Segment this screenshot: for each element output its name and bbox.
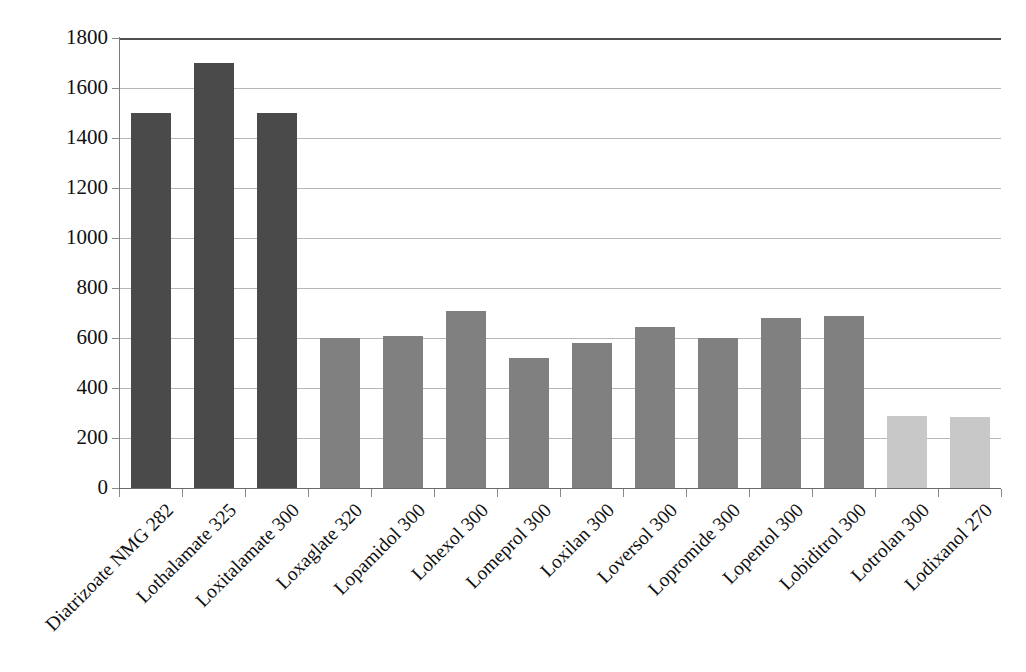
y-tick-mark-600 xyxy=(112,338,119,339)
y-tick-label-800: 800 xyxy=(0,277,108,298)
x-tick-mark xyxy=(119,489,120,497)
gridline-1600 xyxy=(119,88,1001,89)
y-tick-mark-1200 xyxy=(112,188,119,189)
y-tick-label-1600: 1600 xyxy=(0,77,108,98)
gridline-400 xyxy=(119,388,1001,389)
y-axis-line xyxy=(119,37,120,489)
y-tick-mark-1800 xyxy=(112,38,119,39)
gridline-1200 xyxy=(119,188,1001,189)
y-tick-mark-1600 xyxy=(112,88,119,89)
y-tick-mark-1400 xyxy=(112,138,119,139)
y-tick-label-600: 600 xyxy=(0,327,108,348)
gridline-1800 xyxy=(119,38,1001,40)
y-tick-label-1200: 1200 xyxy=(0,177,108,198)
y-tick-mark-1000 xyxy=(112,238,119,239)
y-tick-label-400: 400 xyxy=(0,377,108,398)
bar xyxy=(194,63,234,488)
bar xyxy=(131,113,171,488)
y-tick-mark-800 xyxy=(112,288,119,289)
gridline-1000 xyxy=(119,238,1001,239)
y-tick-label-200: 200 xyxy=(0,427,108,448)
y-tick-mark-200 xyxy=(112,438,119,439)
gridline-1400 xyxy=(119,138,1001,139)
y-tick-mark-400 xyxy=(112,388,119,389)
y-tick-label-1400: 1400 xyxy=(0,127,108,148)
bar-chart: 020040060080010001200140016001800 Diatri… xyxy=(0,0,1026,672)
y-tick-label-0: 0 xyxy=(0,477,108,498)
y-tick-label-1000: 1000 xyxy=(0,227,108,248)
gridline-600 xyxy=(119,338,1001,339)
gridline-800 xyxy=(119,288,1001,289)
y-tick-label-1800: 1800 xyxy=(0,27,108,48)
y-tick-mark-0 xyxy=(112,488,119,489)
bar xyxy=(257,113,297,488)
